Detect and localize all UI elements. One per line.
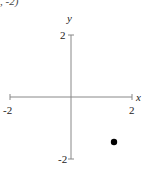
coordinate-plane: x y -2 2 2 -2 [0, 0, 150, 169]
x-axis-label: x [135, 91, 141, 103]
y-tick-label-2: 2 [60, 29, 66, 41]
data-point [111, 139, 117, 145]
x-tick-label-neg2: -2 [3, 104, 12, 116]
x-tick-label-2: 2 [129, 104, 135, 116]
y-axis-label: y [66, 12, 72, 24]
y-tick-label-neg2: -2 [58, 153, 67, 165]
